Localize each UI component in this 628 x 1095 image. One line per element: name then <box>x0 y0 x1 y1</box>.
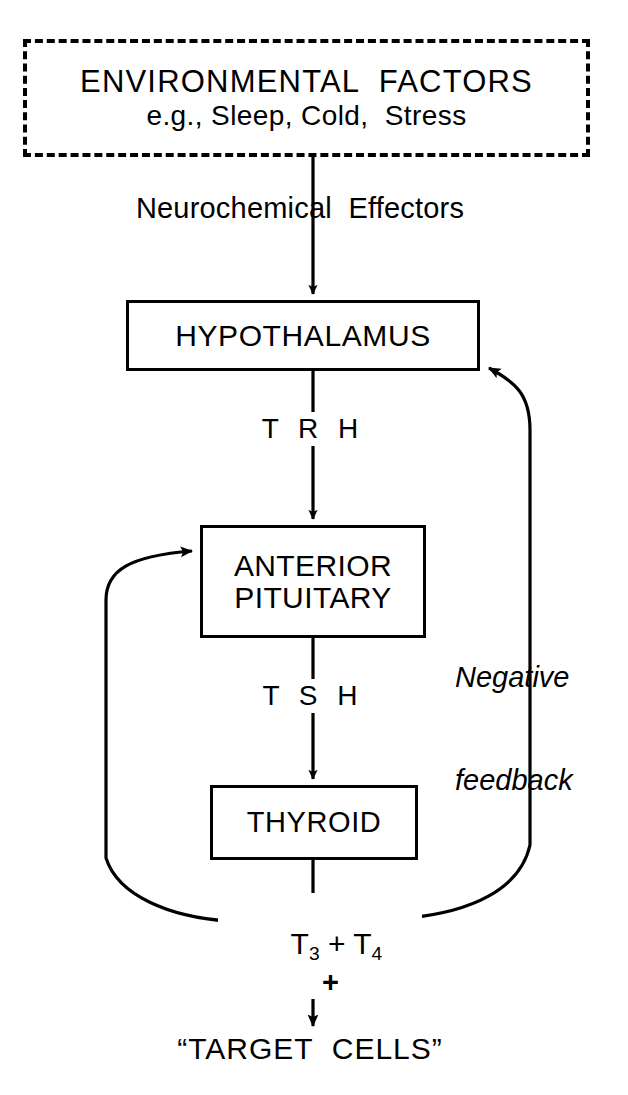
label-trh: T R H <box>233 412 393 446</box>
anterior-pituitary-label-line1: ANTERIOR <box>234 550 392 581</box>
hormone-t3-symbol: T <box>291 927 309 960</box>
label-thyroid-hormones: T3 + T4 <box>218 893 422 999</box>
anterior-pituitary-label-line2: PITUITARY <box>234 582 392 613</box>
label-negative-feedback: Negative feedback <box>455 592 625 866</box>
node-hypothalamus: HYPOTHALAMUS <box>126 300 480 371</box>
node-thyroid: THYROID <box>210 785 418 860</box>
node-target-cells: “TARGET CELLS” <box>60 1032 560 1066</box>
label-stimulation-plus: + <box>322 966 356 999</box>
hypothalamus-label: HYPOTHALAMUS <box>175 319 431 353</box>
hormone-t4-subscript: 4 <box>372 943 383 964</box>
thyroid-label: THYROID <box>247 806 382 839</box>
diagram-canvas: ENVIRONMENTAL FACTORS e.g., Sleep, Cold,… <box>0 0 628 1095</box>
label-tsh: T S H <box>233 679 393 713</box>
negative-feedback-line1: Negative <box>455 660 625 694</box>
edge-negative-feedback-to-hypothalamus-upper <box>489 368 530 586</box>
node-anterior-pituitary: ANTERIOR PITUITARY <box>200 525 426 638</box>
node-environmental-factors: ENVIRONMENTAL FACTORS e.g., Sleep, Cold,… <box>23 39 590 157</box>
environmental-factors-title: ENVIRONMENTAL FACTORS <box>80 66 533 99</box>
hormone-t3-subscript: 3 <box>309 943 320 964</box>
environmental-factors-examples: e.g., Sleep, Cold, Stress <box>146 101 466 130</box>
hormone-operator: + <box>320 927 354 960</box>
negative-feedback-line2: feedback <box>455 763 625 797</box>
hormone-t4-symbol: T <box>353 927 371 960</box>
label-neurochemical-effectors: Neurochemical Effectors <box>0 192 600 225</box>
